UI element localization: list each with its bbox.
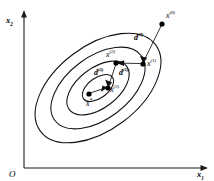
direction-label-d1-superscript: (1) — [123, 67, 128, 72]
contour-ring-3 — [36, 31, 160, 146]
direction-label-d0-superscript: (0) — [138, 32, 143, 37]
iterate-label-x3-superscript: (3) — [114, 84, 119, 89]
iterate-point-x0 — [159, 21, 164, 26]
y-axis-label: x2 — [6, 16, 13, 27]
y-axis-arrowhead — [21, 10, 27, 18]
iterate-label-x-star-mark: * — [90, 96, 93, 103]
origin-label: O — [9, 170, 16, 179]
direction-line-d2 — [109, 65, 115, 84]
direction-label-d0: d(0) — [134, 33, 143, 42]
direction-label-d2: d(2) — [94, 68, 103, 77]
optimization-contour-figure: x2 x1 O x(0) x(1) x(2) x(3) x* d(0) d(1)… — [0, 0, 214, 181]
direction-label-d2-superscript: (2) — [98, 67, 103, 72]
iterate-label-x2: x(2) — [106, 50, 115, 59]
x-axis-label: x1 — [197, 170, 204, 181]
iterate-label-x1-superscript: (1) — [151, 58, 156, 63]
direction-label-d1: d(1) — [119, 68, 128, 77]
contour-group — [15, 11, 181, 165]
x-axis-label-subscript: 1 — [201, 175, 204, 181]
iterate-point-x2 — [113, 60, 118, 65]
contour-ring-2 — [57, 50, 139, 125]
iterate-label-x0: x(0) — [166, 11, 175, 20]
contour-ring-outer — [15, 11, 181, 165]
direction-line-d0 — [145, 26, 161, 60]
iterate-label-x3: x(3) — [110, 85, 119, 94]
y-axis-label-subscript: 2 — [10, 21, 13, 27]
iterate-label-x-star: x* — [86, 97, 93, 108]
iterate-label-x2-superscript: (2) — [110, 49, 115, 54]
iterate-point-x1 — [140, 61, 145, 66]
figure-canvas — [0, 0, 214, 181]
iterate-label-x1: x(1) — [147, 59, 156, 68]
origin-label-text: O — [9, 169, 16, 179]
iterate-label-x0-superscript: (0) — [170, 10, 175, 15]
